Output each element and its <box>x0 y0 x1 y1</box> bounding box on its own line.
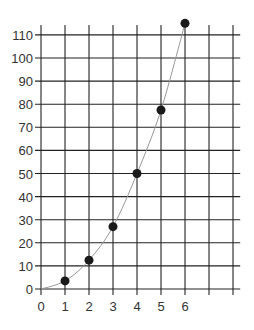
data-point <box>109 222 118 231</box>
x-tick-label: 1 <box>61 299 68 314</box>
x-tick-label: 3 <box>109 299 116 314</box>
y-tick-label: 100 <box>11 51 33 66</box>
y-tick-label: 90 <box>19 74 33 89</box>
data-point <box>133 169 142 178</box>
data-point <box>181 19 190 28</box>
y-tick-label: 60 <box>19 143 33 158</box>
y-tick-label: 10 <box>19 259 33 274</box>
x-tick-label: 6 <box>181 299 188 314</box>
data-point <box>157 105 166 114</box>
y-tick-label: 20 <box>19 236 33 251</box>
y-tick-label: 110 <box>12 28 33 43</box>
y-tick-label: 40 <box>19 190 33 205</box>
y-tick-label: 80 <box>19 97 33 112</box>
data-point <box>85 256 94 265</box>
y-tick-label: 70 <box>19 120 33 135</box>
x-tick-label: 4 <box>133 299 140 314</box>
scatter-chart: 01020304050607080901001100123456 <box>0 0 254 330</box>
x-tick-label: 5 <box>157 299 164 314</box>
data-point <box>61 276 70 285</box>
x-tick-label: 2 <box>85 299 92 314</box>
y-tick-label: 30 <box>19 213 33 228</box>
y-tick-label: 0 <box>26 282 33 297</box>
x-tick-label: 0 <box>37 299 44 314</box>
y-tick-label: 50 <box>19 167 33 182</box>
